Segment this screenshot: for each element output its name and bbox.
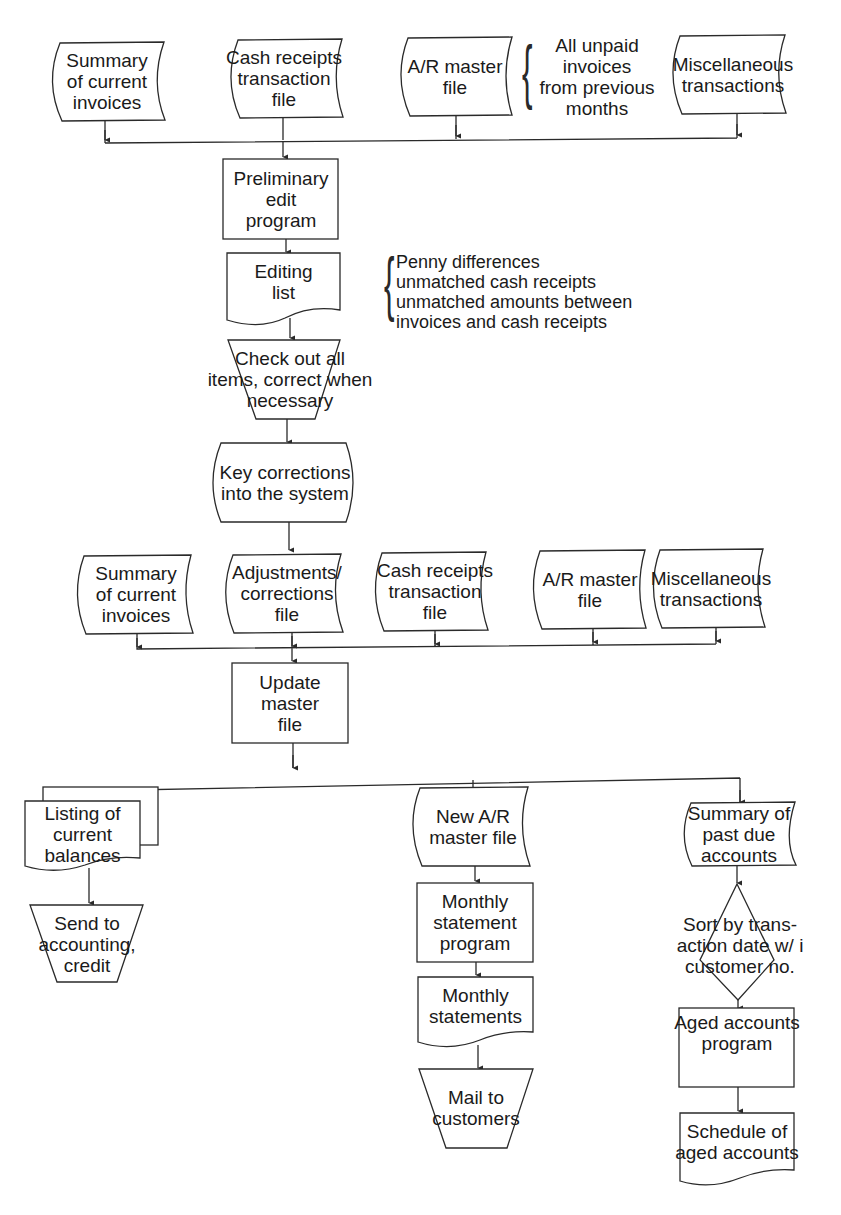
- sort-label: Sort by trans- action date w/ i customer…: [670, 910, 810, 980]
- schedule-aged-label: Schedule of aged accounts: [672, 1113, 802, 1171]
- summary-past-due-label: Summary of past due accounts: [680, 802, 798, 866]
- misc-label: Miscellaneous transactions: [668, 35, 798, 114]
- new-ar-master-label: New A/R master file: [412, 787, 534, 866]
- send-accounting-label: Send to accounting, credit: [22, 910, 152, 978]
- check-out-label: Check out all items, correct when necess…: [200, 346, 380, 412]
- cash-receipts-label: Cash receipts transaction file: [222, 39, 346, 118]
- aged-program-label: Aged accounts program: [672, 1008, 802, 1058]
- listing-balances-label: Listing of current balances: [25, 801, 140, 867]
- ar-master-note-brace: {: [522, 36, 533, 116]
- mail-customers-label: Mail to customers: [418, 1075, 534, 1141]
- summary-invoices-2-label: Summary of current invoices: [76, 555, 196, 634]
- summary-invoices-label: Summary of current invoices: [48, 42, 166, 121]
- monthly-statements-label: Monthly statements: [418, 977, 533, 1035]
- editing-list-note: Penny differences unmatched cash receipt…: [396, 252, 656, 332]
- monthly-statement-program-label: Monthly statement program: [417, 883, 533, 962]
- cash-receipts-2-label: Cash receipts transaction file: [370, 552, 500, 631]
- update-master-label: Update master file: [232, 663, 348, 743]
- key-corrections-label: Key corrections into the system: [210, 443, 360, 522]
- ar-master-label: A/R master file: [396, 37, 514, 116]
- preliminary-edit-label: Preliminary edit program: [223, 159, 339, 239]
- editing-list-label: Editing list: [227, 253, 340, 311]
- ar-master-2-label: A/R master file: [530, 550, 650, 629]
- ar-master-note: All unpaid invoices from previous months: [532, 32, 662, 122]
- adjustments-label: Adjustments/ corrections file: [222, 554, 352, 633]
- editing-list-note-brace: {: [384, 248, 395, 328]
- misc-2-label: Miscellaneous transactions: [646, 549, 776, 628]
